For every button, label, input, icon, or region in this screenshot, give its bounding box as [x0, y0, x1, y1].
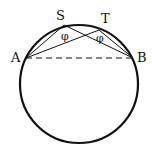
circle [20, 25, 138, 143]
point-label-b: B [137, 50, 147, 65]
point-label-a: A [10, 50, 21, 65]
angle-label-s: φ [61, 30, 69, 43]
inscribed-angle-diagram: S T A B φ φ [0, 0, 152, 155]
diagram-svg: S T A B φ φ [0, 0, 152, 155]
point-label-s: S [56, 8, 65, 23]
point-label-t: T [101, 11, 110, 26]
angle-label-t: φ [96, 32, 104, 45]
segment-a-s [26, 25, 64, 58]
